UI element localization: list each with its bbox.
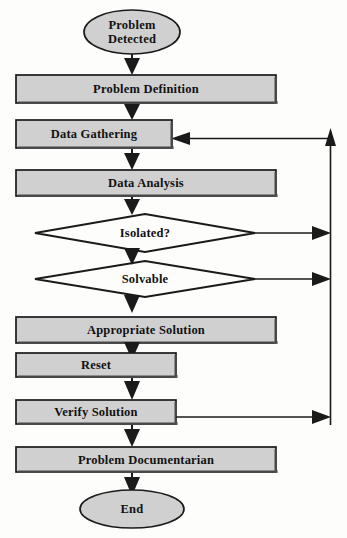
end-ellipse-shape bbox=[80, 490, 184, 528]
data-gathering-rect bbox=[16, 120, 172, 148]
node-start bbox=[84, 10, 180, 54]
node-verify-solution bbox=[16, 400, 178, 425]
edge-arrowhead bbox=[124, 153, 140, 170]
edge-reset-to-verify-solution bbox=[124, 378, 140, 400]
edge-arrowhead bbox=[312, 226, 331, 240]
node-solvable bbox=[35, 261, 255, 297]
data-gathering-shadow bbox=[18, 146, 174, 149]
node-data-gathering bbox=[16, 120, 174, 149]
verify-solution-shadow-right bbox=[174, 402, 177, 425]
node-isolated bbox=[35, 214, 255, 252]
edge-arrowhead bbox=[124, 429, 140, 447]
feedback-bus-up-arrowhead bbox=[325, 128, 336, 146]
problem-documentarian-rect bbox=[16, 447, 276, 472]
node-appropriate-solution bbox=[16, 317, 278, 344]
appropriate-solution-shadow bbox=[18, 341, 278, 344]
problem-definition-rect bbox=[16, 75, 276, 103]
edge-arrowhead bbox=[312, 272, 331, 286]
verify-solution-shadow bbox=[18, 422, 178, 425]
edge-verify-solution-to-feedback-bus bbox=[176, 410, 331, 424]
node-end bbox=[80, 490, 184, 528]
node-reset bbox=[16, 353, 178, 378]
appropriate-solution-shadow-right bbox=[274, 319, 277, 344]
problem-definition-shadow-right bbox=[274, 77, 277, 104]
edge-arrowhead bbox=[124, 104, 140, 120]
edge-arrowhead bbox=[124, 295, 140, 313]
flowchart-graphics bbox=[0, 0, 347, 538]
edge-start-to-problem-definition bbox=[124, 54, 140, 75]
edge-solvable-to-feedback-bus bbox=[255, 272, 331, 286]
edge-arrowhead bbox=[312, 410, 331, 424]
edge-data-analysis-to-isolated bbox=[124, 197, 140, 215]
data-analysis-shadow-right bbox=[274, 172, 277, 197]
problem-documentarian-shadow bbox=[18, 470, 278, 473]
start-ellipse-shape bbox=[84, 10, 180, 54]
edge-solvable-to-appropriate-solution bbox=[124, 294, 140, 313]
solvable-diamond-shape bbox=[35, 261, 255, 297]
node-data-analysis bbox=[16, 170, 278, 197]
appropriate-solution-rect bbox=[16, 317, 276, 343]
data-analysis-rect bbox=[16, 170, 276, 196]
verify-solution-rect bbox=[16, 400, 176, 424]
edge-arrowhead bbox=[124, 199, 140, 215]
data-analysis-shadow bbox=[18, 194, 278, 197]
feedback-to-data-gathering-arrowhead bbox=[171, 132, 190, 145]
edge-arrowhead bbox=[124, 58, 140, 75]
edge-data-gathering-to-data-analysis bbox=[124, 149, 140, 170]
edge-isolated-to-feedback-bus bbox=[255, 226, 331, 240]
node-problem-documentarian bbox=[16, 447, 278, 473]
reset-rect bbox=[16, 353, 176, 377]
data-gathering-shadow-right bbox=[170, 122, 173, 149]
edge-arrowhead bbox=[124, 381, 140, 400]
edge-problem-definition-to-data-gathering bbox=[124, 104, 140, 120]
problem-definition-shadow bbox=[18, 101, 278, 104]
isolated-diamond-shape bbox=[35, 214, 255, 252]
node-problem-definition bbox=[16, 75, 278, 104]
reset-shadow-right bbox=[174, 355, 177, 378]
flowchart-canvas: Problem Detected Problem Definition Data… bbox=[0, 0, 347, 538]
reset-shadow bbox=[18, 375, 178, 378]
edge-verify-solution-to-problem-documentarian bbox=[124, 425, 140, 447]
problem-documentarian-shadow-right bbox=[274, 449, 277, 473]
